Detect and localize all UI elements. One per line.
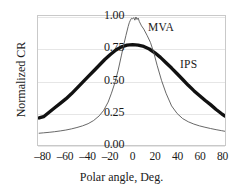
series-line-ips: [39, 45, 225, 118]
x-tick-label: –60: [57, 150, 74, 162]
chart-figure: 0.000.250.500.751.00 –80–60–40–200204060…: [0, 0, 243, 191]
x-axis-title: Polar angle, Deg.: [0, 170, 243, 185]
x-tick-label: 20: [150, 150, 161, 162]
x-tick-label: 40: [172, 150, 183, 162]
y-tick-label: 0.50: [104, 73, 124, 88]
series-annotation-ips: IPS: [180, 58, 197, 70]
x-tick-label: –20: [102, 150, 119, 162]
x-tick-label: 60: [195, 150, 206, 162]
y-tick-label: 1.00: [104, 8, 124, 23]
series-annotation-mva: MVA: [148, 21, 174, 33]
x-tick-label: –40: [79, 150, 96, 162]
y-tick-label: 0.75: [104, 40, 124, 55]
chart-curves: [38, 16, 225, 145]
x-tick-label: –80: [34, 150, 51, 162]
y-tick-label: 0.25: [104, 105, 124, 120]
x-tick-label: 0: [130, 150, 136, 162]
plot-area: [37, 15, 226, 146]
gridline-y-0: [38, 146, 225, 147]
x-tick-label: 80: [217, 150, 228, 162]
y-axis-title: Normalized CR: [14, 10, 29, 150]
series-line-mva: [39, 17, 225, 133]
